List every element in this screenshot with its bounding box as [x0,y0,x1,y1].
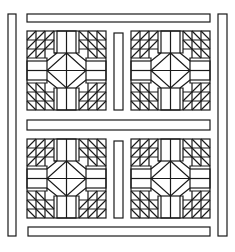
left-border-strip [8,14,16,236]
right-border-strip [218,14,227,236]
quilt-block-top-left [27,31,106,110]
bottom-border-strip [28,227,210,236]
middle-horizontal-sashing [27,120,210,130]
quilt-block-bottom-right [131,139,210,218]
quilt-diagram [0,0,235,252]
middle-vertical-sashing-bottom [114,141,123,218]
quilt-block-top-right [131,31,210,110]
top-border-strip [27,14,210,22]
quilt-block-bottom-left [27,139,106,218]
middle-vertical-sashing-top [114,33,123,110]
